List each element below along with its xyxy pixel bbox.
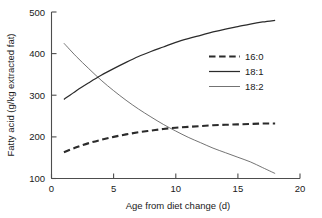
series-line-18-2 [64, 43, 275, 173]
fatty-acid-line-chart: 100 200 300 400 500 0 5 10 15 20 Age fro… [0, 0, 322, 218]
legend-label-16-0: 16:0 [245, 51, 264, 62]
x-axis-title: Age from diet change (d) [126, 200, 231, 211]
x-tick-marks [52, 174, 301, 179]
x-tick-label-20: 20 [295, 183, 306, 194]
chart-figure: 100 200 300 400 500 0 5 10 15 20 Age fro… [0, 0, 322, 218]
y-axis-title: Fatty acid (g/kg extracted fat) [5, 33, 16, 156]
x-tick-label-0: 0 [49, 183, 54, 194]
y-tick-marks [52, 12, 57, 179]
x-tick-label-10: 10 [171, 183, 182, 194]
chart-legend: 16:0 18:1 18:2 [209, 51, 264, 92]
y-tick-label-500: 500 [29, 7, 45, 18]
y-tick-label-300: 300 [29, 90, 45, 101]
y-tick-label-400: 400 [29, 48, 45, 59]
y-tick-label-100: 100 [29, 173, 45, 184]
legend-label-18-1: 18:1 [245, 66, 264, 77]
series-line-18-1 [64, 20, 275, 99]
y-tick-label-200: 200 [29, 131, 45, 142]
legend-label-18-2: 18:2 [245, 81, 264, 92]
x-tick-label-5: 5 [111, 183, 116, 194]
x-tick-label-15: 15 [233, 183, 244, 194]
